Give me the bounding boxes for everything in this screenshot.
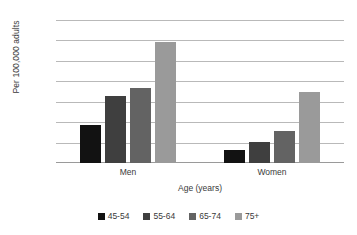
x-axis-category-labels: MenWomen xyxy=(56,167,344,177)
x-axis-category-label: Women xyxy=(200,167,344,177)
chart-legend: 45-5455-6465-7475+ xyxy=(0,211,357,221)
legend-label: 55-64 xyxy=(153,211,175,221)
plot-area xyxy=(56,20,344,163)
bar-groups xyxy=(56,20,344,163)
bar-group xyxy=(200,20,344,163)
bar[interactable] xyxy=(299,92,320,163)
bar-chart: Per 100,000 adults 010020030040050060070… xyxy=(0,0,357,235)
bar[interactable] xyxy=(155,42,176,163)
legend-item[interactable]: 55-64 xyxy=(143,211,175,221)
bar[interactable] xyxy=(274,131,295,163)
bar[interactable] xyxy=(80,125,101,163)
legend-label: 75+ xyxy=(245,211,259,221)
legend-swatch-icon xyxy=(143,213,150,220)
bar[interactable] xyxy=(249,142,270,163)
legend-swatch-icon xyxy=(235,213,242,220)
bar[interactable] xyxy=(105,96,126,163)
legend-swatch-icon xyxy=(98,213,105,220)
legend-item[interactable]: 75+ xyxy=(235,211,259,221)
x-axis-title: Age (years) xyxy=(56,183,344,193)
legend-label: 45-54 xyxy=(108,211,130,221)
legend-swatch-icon xyxy=(189,213,196,220)
legend-item[interactable]: 65-74 xyxy=(189,211,221,221)
bar[interactable] xyxy=(130,88,151,163)
legend-item[interactable]: 45-54 xyxy=(98,211,130,221)
x-axis-category-label: Men xyxy=(56,167,200,177)
bar-group xyxy=(56,20,200,163)
y-axis-title: Per 100,000 adults xyxy=(11,0,21,117)
bar[interactable] xyxy=(224,150,245,163)
legend-label: 65-74 xyxy=(199,211,221,221)
